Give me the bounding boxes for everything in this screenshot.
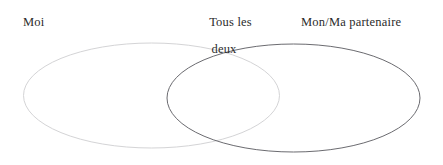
venn-diagram: Moi Tous les deux Mon/Ma partenaire bbox=[0, 0, 443, 165]
venn-label-tous-les-deux-line1: Tous les bbox=[209, 15, 252, 29]
venn-label-partenaire: Mon/Ma partenaire bbox=[301, 16, 401, 30]
venn-label-moi: Moi bbox=[23, 16, 44, 30]
venn-label-tous-les-deux: Tous les deux bbox=[175, 2, 273, 83]
venn-label-tous-les-deux-line2: deux bbox=[175, 43, 273, 57]
